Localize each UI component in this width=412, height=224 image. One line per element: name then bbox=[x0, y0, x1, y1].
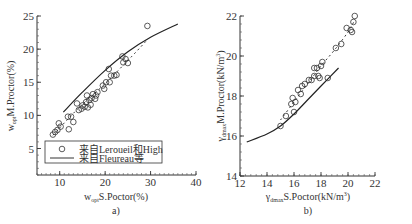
axes-b: 1214161820221416182022 bbox=[226, 10, 381, 189]
data-point bbox=[66, 126, 72, 132]
dashed-fit-line bbox=[53, 41, 146, 135]
x-tick-label: 40 bbox=[191, 176, 203, 188]
x-tick-label: 14 bbox=[262, 177, 274, 189]
data-point bbox=[71, 119, 77, 125]
x-axis-title-b: γdmaxS.Poctor(kN/m3) bbox=[265, 191, 350, 203]
y-tick-label: 20 bbox=[226, 50, 238, 62]
data-point bbox=[107, 79, 113, 85]
x-tick-label: 20 bbox=[343, 177, 355, 189]
panel-label-a: a) bbox=[112, 205, 120, 217]
data-point bbox=[56, 121, 62, 127]
series-a bbox=[50, 23, 178, 137]
data-point bbox=[290, 95, 296, 101]
x-axis-title-a: woptS.Poctor(%) bbox=[84, 191, 148, 203]
data-point bbox=[101, 86, 107, 92]
data-point bbox=[352, 13, 358, 19]
y-tick-label: 15 bbox=[23, 76, 35, 88]
y-tick-label: 14 bbox=[226, 170, 238, 182]
data-point bbox=[74, 101, 80, 107]
y-tick-label: 20 bbox=[23, 43, 35, 55]
y-tick-label: 5 bbox=[29, 143, 35, 155]
x-tick-label: 16 bbox=[289, 177, 301, 189]
chart-panel-b: 1214161820221416182022 γdmaxS.Poctor(kN/… bbox=[215, 10, 381, 217]
y-tick-label: 16 bbox=[226, 130, 238, 142]
y-tick-label: 25 bbox=[23, 10, 35, 22]
data-point bbox=[351, 19, 357, 25]
legend-a: 来自Leroueil和High 来自Fleureau等 bbox=[45, 141, 163, 164]
legend-label-2: 来自Fleureau等 bbox=[79, 152, 144, 164]
x-tick-label: 30 bbox=[145, 176, 157, 188]
y-tick-label: 22 bbox=[226, 10, 237, 22]
x-tick-label: 20 bbox=[100, 176, 112, 188]
y-tick-label: 10 bbox=[23, 109, 35, 121]
x-tick-label: 10 bbox=[54, 176, 66, 188]
y-tick-label: 18 bbox=[226, 90, 238, 102]
x-tick-label: 18 bbox=[316, 177, 328, 189]
figure: 10203040510152025 来自Leroueil和High 来自Fleu… bbox=[0, 0, 412, 224]
x-tick-label: 22 bbox=[370, 177, 381, 189]
series-b bbox=[247, 13, 358, 142]
dashed-fit-line bbox=[281, 20, 355, 120]
y-axis-title-b: γdmaxM.Proctor(kN/m3) bbox=[215, 50, 227, 142]
panel-label-b: b) bbox=[304, 205, 312, 217]
data-point bbox=[145, 23, 151, 29]
data-point bbox=[325, 75, 331, 81]
data-point bbox=[93, 93, 99, 99]
y-axis-title-a: woptM.Proctor(%) bbox=[5, 61, 17, 132]
chart-panel-a: 10203040510152025 来自Leroueil和High 来自Fleu… bbox=[5, 10, 202, 217]
